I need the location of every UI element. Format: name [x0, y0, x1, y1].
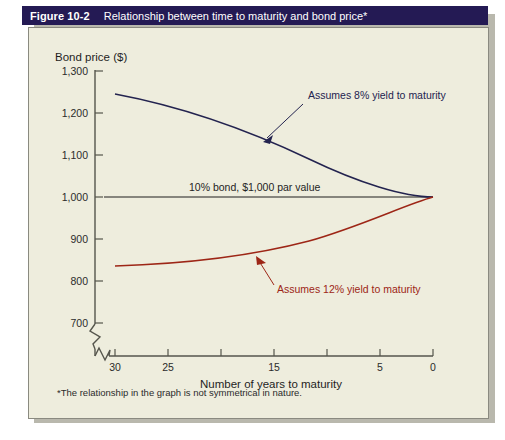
- figure-title-bar: Figure 10-2 Relationship between time to…: [22, 6, 488, 25]
- x-tick-group: [115, 349, 433, 356]
- x-axis-break-icon: [95, 348, 110, 360]
- y-tick-label-1300: 1,300: [62, 65, 88, 77]
- y-tick-label-1100: 1,100: [62, 149, 88, 161]
- y-tick-label-700: 700: [70, 317, 88, 329]
- annotation-12pct-label: Assumes 12% yield to maturity: [277, 283, 421, 295]
- y-axis-break-icon: [90, 324, 100, 349]
- y-tick-group: [95, 71, 103, 323]
- figure-title-text: Relationship between time to maturity an…: [104, 10, 368, 22]
- x-tick-label-25: 25: [162, 361, 174, 373]
- annotation-12pct-arrowhead: [256, 256, 266, 265]
- annotation-8pct-leader-line: [267, 104, 303, 138]
- y-tick-label-1000: 1,000: [62, 191, 88, 203]
- chart-panel: Bond price ($) 1,300: [28, 27, 489, 419]
- bond-price-chart: Bond price ($) 1,300: [29, 28, 490, 420]
- figure-footnote: *The relationship in the graph is not sy…: [57, 387, 302, 398]
- figure-number-label: Figure 10-2: [30, 10, 90, 22]
- figure-panel: Figure 10-2 Relationship between time to…: [0, 0, 505, 440]
- par-value-annotation: 10% bond, $1,000 par value: [189, 181, 321, 193]
- annotation-12pct-leader-line: [259, 261, 274, 285]
- y-tick-label-1200: 1,200: [62, 107, 88, 119]
- x-tick-label-5: 5: [377, 361, 383, 373]
- y-tick-labels: 1,300 1,200 1,100 1,000 900 800 700: [62, 65, 88, 329]
- x-tick-label-0: 0: [430, 361, 436, 373]
- x-tick-label-30: 30: [109, 361, 121, 373]
- annotation-8pct-label: Assumes 8% yield to maturity: [308, 89, 446, 101]
- y-tick-label-900: 900: [70, 233, 88, 245]
- curve-12pct-yield: [115, 197, 433, 266]
- x-tick-label-15: 15: [268, 361, 280, 373]
- y-axis-title: Bond price ($): [55, 51, 127, 63]
- x-tick-labels: 30 25 15 5 0: [109, 361, 436, 373]
- y-tick-label-800: 800: [70, 275, 88, 287]
